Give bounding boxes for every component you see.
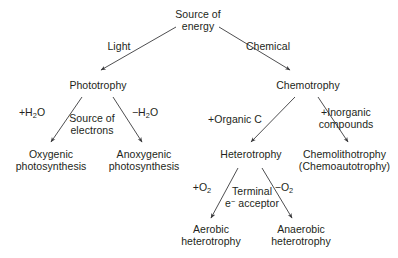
node-source-of-energy: Source of energy — [160, 8, 236, 33]
node-anoxygenic-photosynthesis-line2: photosynthesis — [97, 160, 191, 172]
node-chemolithotrophy-line1: Chemolithotrophy — [303, 148, 386, 160]
node-oxygenic-photosynthesis-line1: Oxygenic — [29, 148, 73, 160]
node-anoxygenic-photosynthesis-line1: Anoxygenic — [117, 148, 172, 160]
node-heterotrophy-line1: Heterotrophy — [220, 148, 281, 160]
node-phototrophy: Phototrophy — [58, 79, 138, 91]
node-chemolithotrophy-line2: (Chemoautotrophy) — [291, 160, 398, 172]
edge-label-plus-inorganic-line1: +Inorganic — [321, 106, 371, 118]
edge-label-plus-inorganic-line2: compounds — [312, 118, 380, 130]
node-source-of-energy-line1: Source of — [175, 8, 220, 20]
edge-label-minus-water: −H2O — [124, 106, 166, 120]
node-anaerobic-heterotrophy-line2: heterotrophy — [255, 235, 347, 247]
edge-label-plus-organic-c-text: +Organic C — [208, 113, 262, 125]
edge-label-plus-water: +H2O — [11, 106, 53, 120]
edge-label-chemical-text: Chemical — [246, 40, 290, 52]
node-oxygenic-photosynthesis: Oxygenic photosynthesis — [4, 148, 98, 173]
edge-label-terminal-acceptor-line2: e− acceptor — [216, 197, 288, 211]
node-phototrophy-line1: Phototrophy — [69, 79, 126, 91]
edge-label-light-text: Light — [107, 40, 130, 52]
edge-label-plus-oxygen: +O2 — [186, 181, 218, 195]
edge-label-plus-oxygen-text: +O2 — [193, 181, 212, 193]
node-heterotrophy: Heterotrophy — [210, 148, 292, 160]
edge-label-terminal-acceptor-line1: Terminal — [232, 185, 272, 197]
node-oxygenic-photosynthesis-line2: photosynthesis — [4, 160, 98, 172]
node-aerobic-heterotrophy: Aerobic heterotrophy — [167, 223, 255, 248]
node-aerobic-heterotrophy-line2: heterotrophy — [167, 235, 255, 247]
edge-label-plus-inorganic: +Inorganic compounds — [312, 106, 380, 131]
node-source-of-energy-line2: energy — [160, 20, 236, 32]
node-anaerobic-heterotrophy: Anaerobic heterotrophy — [255, 223, 347, 248]
edge-label-plus-water-text: +H2O — [19, 106, 45, 118]
edge-label-light: Light — [97, 40, 141, 52]
node-aerobic-heterotrophy-line1: Aerobic — [193, 223, 229, 235]
edge-label-source-of-electrons-line1: Source of — [69, 112, 114, 124]
energy-source-flowchart: Source of energy Phototrophy Chemotrophy… — [0, 0, 398, 258]
edge-label-plus-organic-c: +Organic C — [204, 113, 266, 125]
edge-label-minus-water-text: −H2O — [132, 106, 158, 118]
edge-label-source-of-electrons: Source of electrons — [58, 112, 126, 137]
edge-label-source-of-electrons-line2: electrons — [58, 124, 126, 136]
node-chemotrophy-line1: Chemotrophy — [276, 79, 340, 91]
node-anoxygenic-photosynthesis: Anoxygenic photosynthesis — [97, 148, 191, 173]
node-chemolithotrophy: Chemolithotrophy (Chemoautotrophy) — [291, 148, 398, 173]
edge-label-chemical: Chemical — [240, 40, 296, 52]
node-chemotrophy: Chemotrophy — [266, 79, 350, 91]
edge-label-terminal-acceptor: Terminal e− acceptor — [216, 185, 288, 212]
node-anaerobic-heterotrophy-line1: Anaerobic — [277, 223, 325, 235]
